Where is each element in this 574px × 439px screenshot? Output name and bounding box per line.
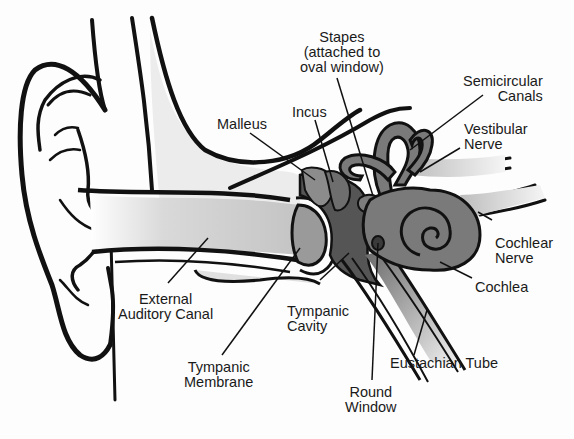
label-malleus: Malleus [217, 117, 267, 132]
label-eustachian-tube: Eustachian Tube [390, 356, 498, 371]
ear-illustration [0, 0, 574, 439]
label-incus: Incus [292, 105, 327, 120]
ear-anatomy-diagram: Stapes (attached to oval window) Semicir… [0, 0, 574, 439]
label-cochlear-nerve: Cochlear Nerve [495, 236, 553, 266]
label-tympanic-membrane: Tympanic Membrane [184, 360, 253, 390]
label-semicircular-canals: Semicircular Canals [463, 74, 543, 104]
label-vestibular-nerve: Vestibular Nerve [464, 122, 528, 152]
label-stapes: Stapes (attached to oval window) [300, 30, 384, 75]
label-tympanic-cavity: Tympanic Cavity [287, 304, 349, 334]
label-cochlea: Cochlea [475, 280, 528, 295]
label-round-window: Round Window [345, 385, 397, 415]
label-external-auditory-canal: External Auditory Canal [118, 292, 213, 322]
cochlea [363, 188, 480, 270]
